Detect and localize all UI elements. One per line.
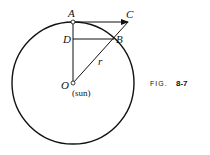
figure-caption-number: 8-7: [176, 79, 188, 88]
point-A-marker: [71, 20, 75, 24]
label-B: B: [116, 33, 123, 45]
label-A: A: [67, 7, 75, 19]
radius-OB-to-C: [73, 22, 128, 83]
orbit-diagram: A C D B r O (sun) FIG. 8-7: [0, 0, 210, 155]
label-O: O: [61, 79, 69, 91]
figure-caption-prefix: FIG.: [150, 80, 168, 87]
label-r: r: [98, 55, 103, 67]
point-O-marker: [71, 81, 75, 85]
label-C: C: [126, 8, 134, 20]
label-D: D: [62, 33, 71, 45]
label-sun: (sun): [72, 88, 91, 98]
